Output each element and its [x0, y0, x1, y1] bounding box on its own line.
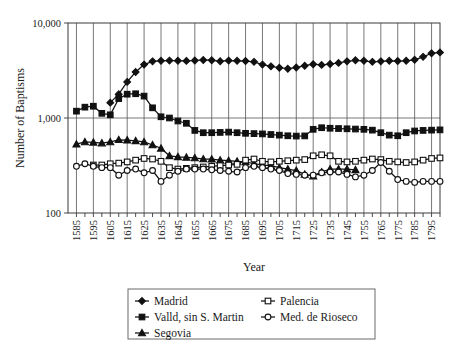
data-point-marker	[158, 159, 164, 165]
data-point-marker	[268, 166, 274, 172]
data-point-marker	[158, 179, 164, 185]
data-point-marker	[209, 130, 215, 136]
data-point-marker	[327, 153, 333, 159]
x-tick-label: 1635	[156, 220, 167, 241]
data-point-marker	[175, 57, 182, 64]
x-tick-label: 1665	[207, 220, 218, 241]
data-point-marker	[335, 60, 342, 67]
gridlines	[68, 23, 440, 213]
x-tick-label: 1685	[240, 220, 251, 241]
data-point-marker	[166, 57, 173, 64]
x-tick-label: 1705	[274, 220, 285, 241]
data-point-marker	[234, 162, 240, 168]
data-point-marker	[251, 58, 258, 65]
chart-canvas: 1585159516051615162516351645165516651675…	[0, 0, 456, 347]
data-point-marker	[386, 168, 392, 174]
data-point-marker	[175, 118, 181, 124]
data-point-marker	[99, 111, 105, 117]
x-tick-label: 1655	[190, 220, 201, 241]
x-tick-label: 1675	[223, 220, 234, 241]
data-point-marker	[90, 163, 96, 169]
data-point-marker	[327, 125, 333, 131]
data-point-marker	[302, 157, 308, 163]
x-tick-label: 1695	[257, 220, 268, 241]
data-point-marker	[158, 114, 164, 120]
data-point-marker	[420, 157, 426, 163]
data-point-marker	[353, 159, 359, 165]
legend-label: Med. de Rioseco	[280, 311, 358, 323]
series-valld-sin-s-martin	[74, 91, 443, 139]
data-point-marker	[361, 127, 367, 133]
data-point-marker	[167, 172, 173, 178]
data-point-marker	[208, 57, 215, 64]
data-point-marker	[133, 166, 139, 172]
x-tick-label: 1725	[308, 220, 319, 241]
data-point-marker	[319, 170, 325, 176]
x-tick-label: 1785	[409, 220, 420, 241]
data-point-marker	[403, 57, 410, 64]
data-point-marker	[319, 125, 325, 131]
data-point-marker	[395, 159, 401, 165]
data-point-marker	[344, 171, 350, 177]
data-point-marker	[370, 156, 376, 162]
data-point-marker	[412, 128, 418, 134]
data-point-marker	[344, 159, 350, 165]
legend-item-madrid[interactable]: Madrid	[135, 295, 188, 307]
data-point-marker	[200, 130, 206, 136]
data-point-marker	[284, 65, 291, 72]
data-point-marker	[184, 120, 190, 126]
data-point-marker	[74, 163, 80, 169]
data-point-marker	[378, 160, 384, 166]
x-tick-label: 1615	[122, 220, 133, 241]
data-point-marker	[369, 168, 375, 174]
data-point-marker	[268, 63, 275, 70]
legend-item-palencia[interactable]: Palencia	[261, 295, 319, 307]
y-axis-title: Number of Baptisms	[13, 68, 27, 168]
legend-item-valld-sin-s-martin[interactable]: Valld, sin S. Martin	[135, 311, 244, 324]
data-point-marker	[209, 167, 215, 173]
legend-label: Palencia	[280, 295, 319, 307]
legend-item-segovia[interactable]: Segovia	[135, 327, 191, 340]
data-point-marker	[377, 58, 384, 65]
data-point-marker	[251, 131, 257, 137]
data-point-marker	[437, 179, 443, 185]
data-point-marker	[150, 105, 156, 111]
data-point-marker	[226, 168, 232, 174]
data-point-marker	[226, 129, 232, 135]
legend-item-med-de-rioseco[interactable]: Med. de Rioseco	[261, 311, 358, 323]
data-point-marker	[200, 57, 207, 64]
data-point-marker	[403, 179, 409, 185]
data-point-marker	[429, 127, 435, 133]
data-point-marker	[302, 133, 308, 139]
data-point-marker	[277, 159, 283, 165]
data-point-marker	[361, 157, 367, 163]
data-point-marker	[133, 91, 139, 97]
data-point-marker	[251, 163, 257, 169]
data-point-marker	[226, 162, 232, 168]
data-point-marker	[183, 58, 190, 65]
data-point-marker	[386, 57, 393, 64]
series-line	[76, 163, 440, 183]
data-point-marker	[344, 126, 350, 132]
data-point-marker	[353, 174, 359, 180]
y-axis-tick-labels: 10,0001,000100	[32, 18, 61, 219]
data-point-marker	[420, 179, 426, 185]
x-axis-tick-labels: 1585159516051615162516351645165516651675…	[71, 220, 437, 241]
data-point-marker	[318, 62, 325, 69]
axis-ticks	[64, 23, 440, 217]
data-point-marker	[420, 128, 426, 134]
data-point-marker	[260, 165, 266, 171]
x-tick-label: 1585	[71, 220, 82, 241]
data-point-marker	[361, 57, 368, 64]
data-point-marker	[167, 115, 173, 121]
data-point-marker	[378, 130, 384, 136]
data-point-marker	[437, 155, 443, 161]
data-point-marker	[285, 158, 291, 164]
x-tick-label: 1795	[426, 220, 437, 241]
data-point-marker	[192, 166, 198, 172]
y-tick-label: 100	[45, 208, 61, 219]
data-point-marker	[139, 298, 146, 305]
data-point-marker	[403, 130, 409, 136]
data-point-marker	[268, 159, 274, 165]
data-point-marker	[293, 133, 299, 139]
